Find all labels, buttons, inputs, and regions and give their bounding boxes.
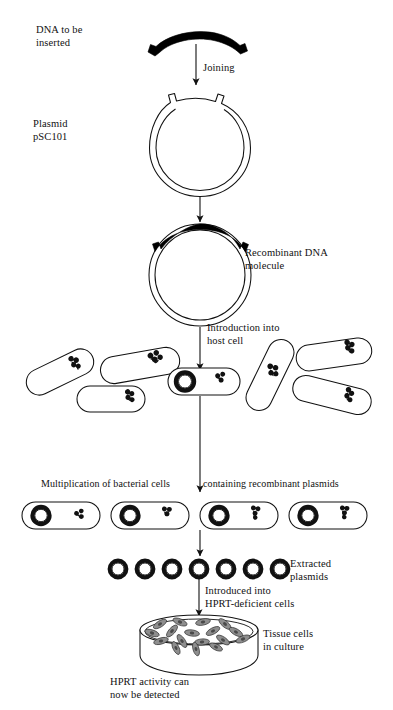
extracted-plasmid [245,561,262,578]
recombinant-bacterium [111,502,189,529]
extracted-plasmid [191,561,208,578]
bacteria-population [22,335,374,417]
plasmid-psc101-shape [150,94,251,197]
recombinant-dna-figure: DNA to be inserted Joining Plasmid pSC10… [0,0,393,710]
extracted-plasmid [164,561,181,578]
recombinant-bacteria-row [22,502,367,529]
bacterium [290,373,374,418]
recombinant-bacterium [200,502,278,529]
extracted-plasmid [218,561,235,578]
label-multiplication-of-bacterial-cells: Multiplication of bacterial cells [41,478,170,490]
recombinant-bacterium [22,502,100,529]
bacterium [77,386,145,412]
label-tissue-cells-in-culture: Tissue cells in culture [263,628,313,654]
bacterium [295,336,374,372]
recombinant-bacterium [289,502,367,529]
label-recombinant-dna-molecule: Recombinant DNA molecule [245,247,328,273]
host-cell-with-plasmid [168,368,240,395]
extracted-plasmid [110,561,127,578]
label-plasmid-psc101: Plasmid pSC101 [33,118,68,144]
extracted-plasmid [137,561,154,578]
label-introduction-into-host-cell: Introduction into host cell [207,322,280,348]
label-containing-recombinant-plasmids: containing recombinant plasmids [203,478,339,490]
label-extracted-plasmids: Extracted plasmids [290,558,331,584]
figure-canvas [0,0,393,710]
extracted-plasmids-row [110,561,289,578]
petri-dish [140,615,258,675]
label-dna-to-be-inserted: DNA to be inserted [36,24,82,50]
recombinant-dna-molecule-shape [149,224,251,326]
label-introduced-into-hprt-deficient-cells: Introduced into HPRT-deficient cells [205,585,294,611]
extracted-plasmid [272,561,289,578]
insert-dna-fragment [148,32,248,56]
label-hprt-activity-caption: HPRT activity can now be detected [110,676,189,702]
label-joining: Joining [203,62,235,75]
